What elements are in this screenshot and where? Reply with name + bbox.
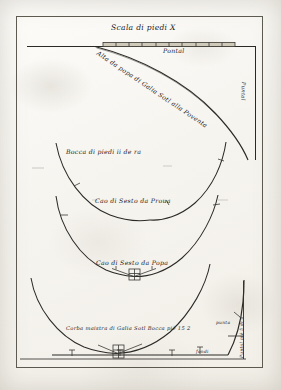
label-puntal-piedi: Puntal piè 5 di 4 [240,316,244,358]
keel-detail-upper [112,266,156,280]
label-bocca-di-piedi: Bocca di piedi ii de ra [66,149,141,155]
label-fondi: fondi [196,350,209,354]
label-puntal-vertical: Puntal [240,82,246,101]
curve-sesto-prova [56,195,220,280]
label-cao-sesto-prova: Cao di Sesto da Proua [95,198,171,204]
scale-bar-label: Pontal [163,48,185,54]
scale-bar [103,42,235,46]
label-punta-corner: punta [216,321,230,325]
label-corba-maistra: Corba maistra di Galia Sotl Bocca piè 15… [66,326,191,331]
scale-title: Scala di piedi X [111,24,176,32]
curve-sesto-popa [31,264,210,358]
faint-guide-marks [32,166,228,200]
drawing-sheet: Scala di piedi X Pontal Alta da popa di … [0,0,281,390]
label-cao-sesto-popa: Cao di Sesto da Popa [96,260,168,266]
